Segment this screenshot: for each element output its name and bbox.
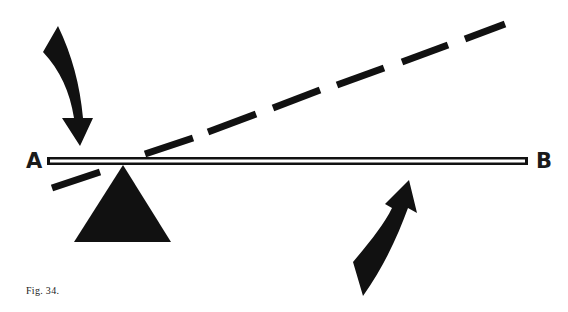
figure-caption: Fig. 34.: [26, 285, 59, 296]
lever-diagram: [0, 0, 568, 312]
lever-bar: [47, 157, 528, 165]
down-arrow-icon: [43, 26, 93, 146]
end-label-b: B: [536, 151, 552, 172]
end-label-a: A: [26, 151, 42, 172]
up-arrow-icon: [353, 180, 417, 296]
